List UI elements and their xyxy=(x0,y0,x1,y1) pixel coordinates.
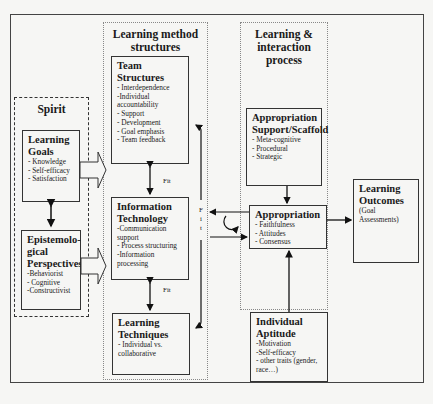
block-arrow-epistemological xyxy=(81,248,106,284)
block-arrow-goals xyxy=(80,152,106,188)
cycle-icon xyxy=(224,216,238,230)
connector-arrows xyxy=(0,0,433,404)
